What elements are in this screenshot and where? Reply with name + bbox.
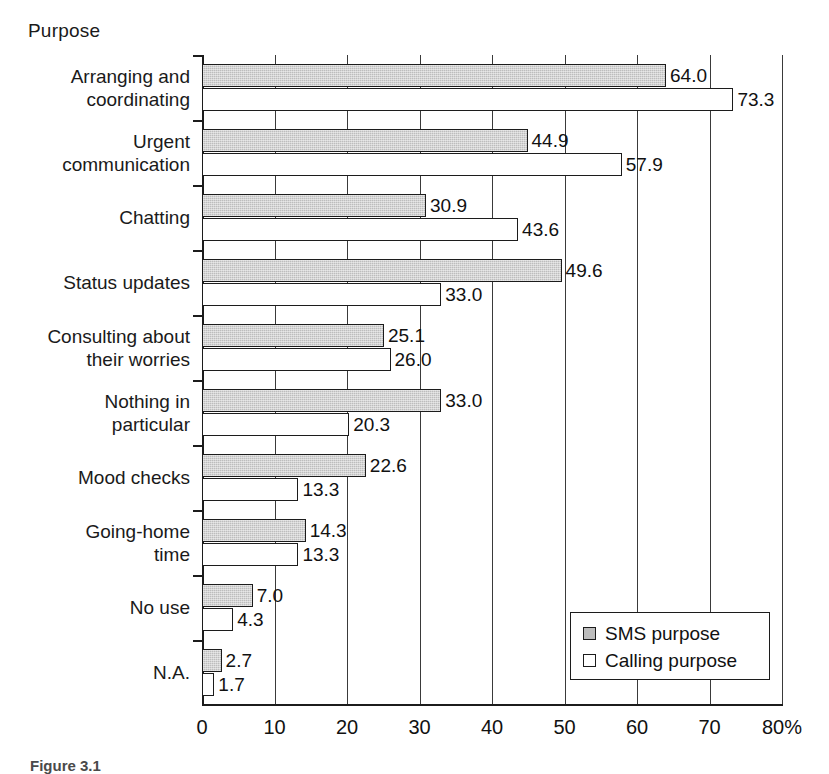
x-tick-label-60: 60 (626, 716, 648, 739)
group-tick-3 (193, 250, 202, 252)
figure-caption: Figure 3.1 (30, 757, 101, 774)
bar-value-sms-2: 30.9 (430, 194, 467, 217)
group-tick-1 (193, 120, 202, 122)
bar-value-calling-3: 33.0 (445, 283, 482, 306)
bar-calling-0 (202, 88, 733, 111)
x-tick-label-70: 70 (698, 716, 720, 739)
category-label-1: Urgent communication (0, 130, 190, 176)
x-tick-label-0: 0 (196, 716, 207, 739)
bar-value-sms-9: 2.7 (226, 649, 252, 672)
bar-calling-1 (202, 153, 622, 176)
category-label-3: Status updates (0, 271, 190, 294)
bar-sms-8 (202, 584, 253, 607)
bar-value-calling-5: 20.3 (353, 413, 390, 436)
legend-label-sms: SMS purpose (605, 623, 720, 645)
group-tick-4 (193, 315, 202, 317)
bar-value-sms-7: 14.3 (310, 519, 347, 542)
category-label-9: N.A. (0, 661, 190, 684)
bar-sms-7 (202, 519, 306, 542)
bar-calling-2 (202, 218, 518, 241)
legend-swatch-calling-icon (583, 654, 596, 667)
bar-calling-8 (202, 608, 233, 631)
x-tick-label-50: 50 (553, 716, 575, 739)
bar-calling-6 (202, 478, 298, 501)
category-label-6: Mood checks (0, 466, 190, 489)
bar-sms-1 (202, 129, 528, 152)
group-tick-9 (193, 640, 202, 642)
gridline-80 (782, 55, 783, 705)
legend-item-sms: SMS purpose (583, 620, 769, 647)
legend-label-calling: Calling purpose (605, 650, 737, 672)
bar-value-sms-6: 22.6 (370, 454, 407, 477)
bar-value-calling-1: 57.9 (626, 153, 663, 176)
bar-calling-3 (202, 283, 441, 306)
bar-value-calling-6: 13.3 (302, 478, 339, 501)
category-label-7: Going-home time (0, 520, 190, 566)
group-tick-8 (193, 575, 202, 577)
bar-value-sms-3: 49.6 (566, 259, 603, 282)
bar-value-sms-1: 44.9 (532, 129, 569, 152)
x-tick-label-80: 80% (762, 716, 802, 739)
bar-value-calling-9: 1.7 (218, 673, 244, 696)
legend-item-calling: Calling purpose (583, 647, 769, 674)
bar-value-calling-7: 13.3 (302, 543, 339, 566)
group-tick-7 (193, 510, 202, 512)
x-axis-line (202, 704, 783, 706)
bar-sms-2 (202, 194, 426, 217)
bar-sms-6 (202, 454, 366, 477)
x-tick-label-10: 10 (263, 716, 285, 739)
bar-sms-5 (202, 389, 441, 412)
bar-value-calling-2: 43.6 (522, 218, 559, 241)
category-label-2: Chatting (0, 206, 190, 229)
bar-sms-0 (202, 64, 666, 87)
group-tick-2 (193, 185, 202, 187)
x-tick-label-20: 20 (336, 716, 358, 739)
category-label-5: Nothing in particular (0, 390, 190, 436)
bar-calling-4 (202, 348, 391, 371)
legend-swatch-sms-icon (583, 627, 596, 640)
bar-sms-3 (202, 259, 562, 282)
bar-value-calling-8: 4.3 (237, 608, 263, 631)
bar-value-sms-5: 33.0 (445, 389, 482, 412)
bar-value-calling-4: 26.0 (395, 348, 432, 371)
category-label-4: Consulting about their worries (0, 325, 190, 371)
x-tick-label-40: 40 (481, 716, 503, 739)
group-tick-5 (193, 380, 202, 382)
group-tick-0 (193, 55, 202, 57)
bar-value-sms-0: 64.0 (670, 64, 707, 87)
bar-value-sms-4: 25.1 (388, 324, 425, 347)
bar-calling-7 (202, 543, 298, 566)
group-tick-6 (193, 445, 202, 447)
category-label-8: No use (0, 596, 190, 619)
bar-sms-9 (202, 649, 222, 672)
bar-value-calling-0: 73.3 (737, 88, 774, 111)
y-axis-title: Purpose (28, 20, 100, 42)
gridline-70 (710, 55, 711, 705)
bar-sms-4 (202, 324, 384, 347)
bar-value-sms-8: 7.0 (257, 584, 283, 607)
category-label-0: Arranging and coordinating (0, 65, 190, 111)
x-tick-label-30: 30 (408, 716, 430, 739)
bar-calling-9 (202, 673, 214, 696)
chart-legend: SMS purpose Calling purpose (570, 612, 770, 680)
bar-calling-5 (202, 413, 349, 436)
